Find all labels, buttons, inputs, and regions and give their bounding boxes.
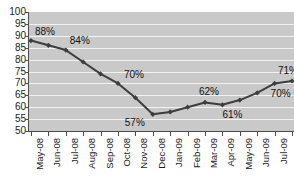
y-tick-label: 55 — [0, 114, 26, 124]
x-tick-mark — [101, 132, 102, 136]
x-tick-label: Mar-09 — [209, 138, 219, 168]
y-tick-mark — [25, 60, 29, 61]
x-tick-label: Apr-09 — [226, 138, 236, 167]
x-tick-mark — [118, 132, 119, 136]
data-point-label: 57% — [125, 118, 145, 128]
y-tick-mark — [25, 36, 29, 37]
data-point-label: 88% — [35, 27, 55, 37]
y-tick-mark — [25, 119, 29, 120]
y-tick-label: 75 — [0, 67, 26, 77]
plot-area — [29, 12, 294, 131]
x-tick-mark — [170, 132, 171, 136]
y-tick-label: 90 — [0, 31, 26, 41]
y-tick-mark — [25, 95, 29, 96]
y-tick-mark — [25, 83, 29, 84]
x-tick-mark — [257, 132, 258, 136]
x-tick-label: Jun-09 — [261, 138, 271, 167]
series-polyline — [31, 41, 292, 115]
data-series-line — [29, 12, 294, 131]
data-point-label: 61% — [222, 110, 242, 120]
y-tick-mark — [25, 107, 29, 108]
x-tick-mark — [275, 132, 276, 136]
data-point-label: 62% — [199, 87, 219, 97]
y-tick-label: 65 — [0, 90, 26, 100]
y-tick-mark — [25, 24, 29, 25]
data-point-label: 84% — [70, 36, 90, 46]
x-tick-label: Jan-09 — [174, 138, 184, 167]
x-tick-mark — [153, 132, 154, 136]
data-point-marker — [168, 109, 173, 114]
x-tick-mark — [188, 132, 189, 136]
x-tick-label: Sep-08 — [105, 138, 115, 169]
y-tick-mark — [25, 12, 29, 13]
data-point-marker — [185, 105, 190, 110]
data-point-marker — [289, 78, 294, 83]
x-tick-label: Jun-08 — [52, 138, 62, 167]
y-tick-label: 95 — [0, 19, 26, 29]
x-tick-label: Dec-08 — [157, 138, 167, 169]
y-tick-label: 100 — [0, 7, 26, 17]
y-tick-mark — [25, 72, 29, 73]
x-tick-mark — [240, 132, 241, 136]
data-point-marker — [220, 102, 225, 107]
y-tick-label: 70 — [0, 78, 26, 88]
x-tick-mark — [48, 132, 49, 136]
data-point-label: 70% — [124, 70, 144, 80]
y-tick-mark — [25, 131, 29, 132]
x-tick-label: Jul-09 — [279, 138, 289, 164]
x-tick-label: Nov-08 — [139, 138, 149, 169]
x-tick-mark — [31, 132, 32, 136]
x-tick-mark — [66, 132, 67, 136]
y-axis-tick-labels: 10095908580757065605550 — [0, 12, 26, 130]
line-chart: 10095908580757065605550 88%84%70%57%62%6… — [0, 0, 294, 190]
x-tick-label: May-08 — [35, 138, 45, 170]
data-point-label: 70% — [271, 89, 291, 99]
y-tick-label: 85 — [0, 43, 26, 53]
x-tick-label: May-09 — [244, 138, 254, 170]
x-tick-mark — [83, 132, 84, 136]
x-axis-line — [28, 131, 294, 132]
data-point-label: 71% — [278, 66, 294, 76]
y-tick-mark — [25, 48, 29, 49]
data-point-marker — [29, 38, 34, 43]
x-tick-mark — [205, 132, 206, 136]
data-point-marker — [46, 43, 51, 48]
x-tick-mark — [222, 132, 223, 136]
x-tick-mark — [135, 132, 136, 136]
y-tick-label: 60 — [0, 102, 26, 112]
x-tick-label: Jul-08 — [70, 138, 80, 164]
x-tick-label: Oct-08 — [122, 138, 132, 167]
x-tick-label: Aug-08 — [87, 138, 97, 169]
y-tick-label: 80 — [0, 55, 26, 65]
x-tick-label: Feb-09 — [192, 138, 202, 168]
data-point-marker — [202, 100, 207, 105]
x-tick-mark — [292, 132, 293, 136]
y-tick-label: 50 — [0, 126, 26, 136]
